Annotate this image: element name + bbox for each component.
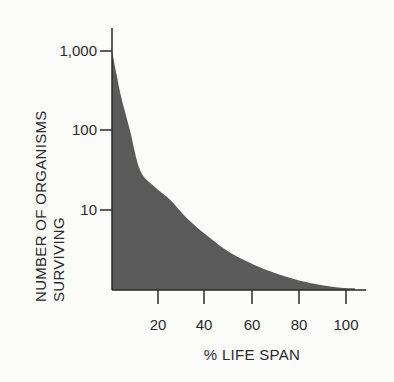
- x-tick-label-80: 80: [291, 316, 308, 333]
- y-tick-label-100: 100: [72, 121, 97, 138]
- x-tick-label-20: 20: [150, 316, 167, 333]
- survivorship-chart: 1,000 100 10 20 40 60 80 100 % LIFE SPAN…: [0, 0, 394, 382]
- x-tick-label-40: 40: [196, 316, 213, 333]
- y-axis-title-line-2: SURVIVING: [50, 217, 67, 302]
- x-tick-label-100: 100: [333, 316, 358, 333]
- survivorship-area: [112, 51, 355, 290]
- y-ticks: [100, 51, 112, 210]
- x-axis-title: % LIFE SPAN: [204, 346, 300, 363]
- x-tick-label-60: 60: [244, 316, 261, 333]
- y-tick-label-10: 10: [80, 201, 97, 218]
- x-ticks: [158, 290, 346, 304]
- y-tick-label-1000: 1,000: [59, 42, 97, 59]
- y-axis-title-line-1: NUMBER OF ORGANISMS: [32, 110, 49, 302]
